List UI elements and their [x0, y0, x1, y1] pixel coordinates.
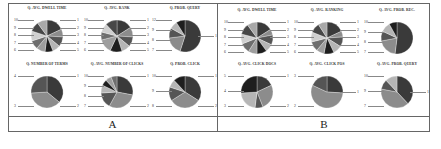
pie-chart: Q. AVG. DWELL TIME10987612345	[12, 6, 82, 62]
leader-line	[130, 106, 146, 107]
leader-line	[228, 37, 244, 38]
leader-line	[18, 106, 34, 107]
slice-label: 8	[152, 38, 154, 42]
leader-line	[228, 106, 244, 107]
leader-line	[130, 43, 146, 44]
leader-line	[60, 76, 76, 77]
leader-line	[368, 106, 384, 107]
slice-label: 7	[364, 104, 366, 108]
slice-label: 2	[77, 26, 79, 30]
slice-label: 1	[77, 18, 79, 22]
slice-label: 9	[364, 30, 366, 34]
leader-line	[340, 45, 356, 46]
slice-label: 7	[224, 43, 226, 47]
leader-line	[88, 50, 104, 51]
leader-line	[60, 35, 76, 36]
leader-line	[18, 20, 34, 21]
slice-label: 9	[84, 26, 86, 30]
leader-line	[156, 106, 172, 107]
leader-line	[88, 86, 104, 87]
slice-label: 1	[357, 90, 359, 94]
slice-label: 1	[427, 90, 429, 94]
pie-graphic	[362, 8, 432, 64]
leader-line	[368, 52, 384, 53]
pie-chart: Q. AVG. PROB. REC.10987	[362, 8, 432, 64]
leader-line	[368, 32, 384, 33]
slice-label: 3	[147, 33, 149, 37]
slice-label: 8	[84, 33, 86, 37]
leader-line	[228, 52, 244, 53]
leader-line	[270, 37, 286, 38]
slice-label: 4	[287, 43, 289, 47]
pie-slice	[31, 76, 47, 93]
pie-graphic	[12, 6, 82, 62]
leader-line	[270, 106, 286, 107]
slice-label: 4	[357, 43, 359, 47]
leader-line	[156, 91, 172, 92]
slice-label: 1	[287, 74, 289, 78]
pie-chart: Q. AVG. DWELL TIME10987612345	[222, 8, 292, 64]
leader-line	[156, 20, 172, 21]
leader-line	[270, 45, 286, 46]
leader-line	[130, 20, 146, 21]
slice-label: 4	[147, 41, 149, 45]
leader-line	[198, 106, 214, 107]
pie-graphic	[150, 62, 220, 118]
panel-label-b: B	[218, 118, 430, 130]
leader-line	[340, 37, 356, 38]
leader-line	[156, 76, 172, 77]
leader-line	[60, 28, 76, 29]
slice-label: 2	[77, 104, 79, 108]
leader-line	[88, 20, 104, 21]
slice-label: 3	[224, 104, 226, 108]
leader-line	[340, 52, 356, 53]
slice-label: 6	[294, 50, 296, 54]
leader-line	[60, 20, 76, 21]
slice-label: 9	[294, 28, 296, 32]
slice-label: 6	[84, 48, 86, 52]
slice-label: 9	[152, 28, 154, 32]
slice-label: 1	[357, 20, 359, 24]
pie-chart: Q. AVG. RANKING10987612345	[292, 8, 362, 64]
leader-line	[60, 43, 76, 44]
leader-line	[198, 76, 214, 77]
leader-line	[88, 28, 104, 29]
pie-graphic	[150, 6, 220, 62]
slice-label: 3	[77, 33, 79, 37]
leader-line	[270, 30, 286, 31]
leader-line	[228, 91, 244, 92]
leader-line	[88, 76, 104, 77]
leader-line	[270, 76, 286, 77]
slice-label: 5	[287, 50, 289, 54]
leader-line	[298, 45, 314, 46]
leader-line	[60, 106, 76, 107]
panel-label-a: A	[8, 118, 217, 130]
leader-line	[368, 76, 384, 77]
slice-label: 1	[215, 34, 217, 38]
slice-label: 7	[294, 43, 296, 47]
pie-graphic	[12, 62, 82, 118]
pie-graphic	[292, 8, 362, 64]
pie-graphic	[82, 6, 152, 62]
pie-chart: Q. AVG. CLICK DOCS54312	[222, 62, 292, 118]
slice-label: 7	[152, 48, 154, 52]
slice-label: 5	[357, 50, 359, 54]
slice-label: 2	[294, 104, 296, 108]
pie-graphic	[362, 62, 432, 118]
pie-slice	[117, 76, 133, 95]
slice-label: 6	[224, 50, 226, 54]
leader-line	[130, 35, 146, 36]
pie-graphic	[82, 62, 152, 118]
leader-line	[88, 43, 104, 44]
pie-chart: Q. AVG. NUMBER OF CLICKS1098712	[82, 62, 152, 118]
pie-slice	[327, 76, 343, 93]
slice-label: 2	[147, 26, 149, 30]
leader-line	[130, 76, 146, 77]
slice-label: 3	[287, 35, 289, 39]
slice-label: 9	[364, 89, 366, 93]
leader-line	[88, 35, 104, 36]
slice-label: 5	[147, 48, 149, 52]
slice-label: 1	[77, 74, 79, 78]
slice-label: 7	[84, 41, 86, 45]
leader-line	[298, 76, 314, 77]
